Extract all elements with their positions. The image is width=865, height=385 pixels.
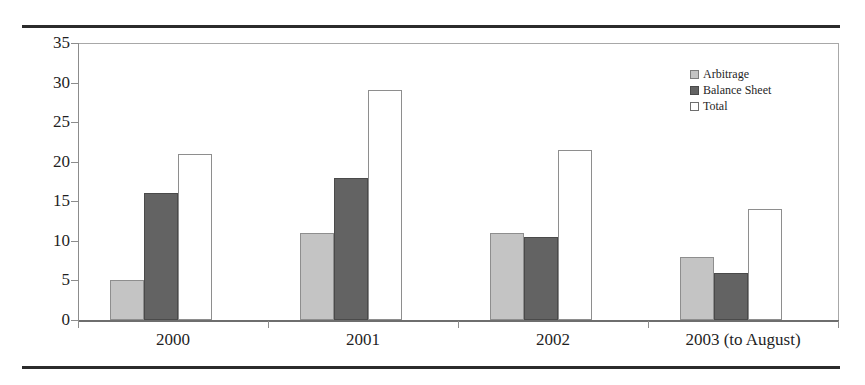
x-axis-tick-mark (268, 321, 269, 328)
y-axis-tick-mark (71, 43, 79, 44)
bar (680, 257, 714, 320)
bar (178, 154, 212, 320)
x-axis-label: 2002 (458, 330, 648, 350)
bar (368, 90, 402, 320)
y-axis-tick-mark (71, 83, 79, 84)
bar (748, 209, 782, 320)
y-axis-tick-label: 30 (30, 74, 70, 91)
legend-label-arbitrage: Arbitrage (703, 66, 749, 82)
x-axis-tick-mark (78, 321, 79, 328)
bar (524, 237, 558, 320)
bar (490, 233, 524, 320)
x-axis-label: 2001 (268, 330, 458, 350)
x-axis-label: 2000 (78, 330, 268, 350)
y-axis-tick-label: 15 (30, 192, 70, 209)
legend-swatch-icon-balance-sheet (690, 86, 699, 95)
bar (110, 280, 144, 320)
y-axis-tick-label: 5 (30, 271, 70, 288)
chart-figure: 05101520253035 2000200120022003 (to Augu… (0, 0, 865, 385)
legend-item-balance-sheet: Balance Sheet (690, 82, 771, 98)
y-axis-tick-mark (71, 162, 79, 163)
plot-frame-top (78, 43, 839, 44)
y-axis-tick-label: 20 (30, 153, 70, 170)
legend-swatch-icon-total (690, 102, 699, 111)
legend-item-arbitrage: Arbitrage (690, 66, 771, 82)
legend-label-balance-sheet: Balance Sheet (703, 82, 771, 98)
chart-legend: Arbitrage Balance Sheet Total (690, 66, 771, 114)
bar (714, 273, 748, 320)
legend-label-total: Total (703, 98, 728, 114)
y-axis-tick-label: 10 (30, 232, 70, 249)
bottom-rule (22, 366, 840, 369)
bar (334, 178, 368, 320)
top-rule (22, 25, 840, 28)
plot-frame-right (838, 43, 839, 321)
y-axis-tick-mark (71, 122, 79, 123)
y-axis-tick-label: 35 (30, 34, 70, 51)
x-axis-tick-mark (458, 321, 459, 328)
bar (558, 150, 592, 320)
y-axis-tick-mark (71, 201, 79, 202)
y-axis-tick-mark (71, 241, 79, 242)
legend-swatch-icon-arbitrage (690, 70, 699, 79)
bar (300, 233, 334, 320)
x-axis-label: 2003 (to August) (648, 330, 838, 350)
y-axis-tick-mark (71, 280, 79, 281)
bar (144, 193, 178, 320)
x-axis-tick-mark (838, 321, 839, 328)
legend-item-total: Total (690, 98, 771, 114)
y-axis-tick-label: 0 (30, 311, 70, 328)
x-axis-tick-mark (648, 321, 649, 328)
y-axis-tick-label: 25 (30, 113, 70, 130)
